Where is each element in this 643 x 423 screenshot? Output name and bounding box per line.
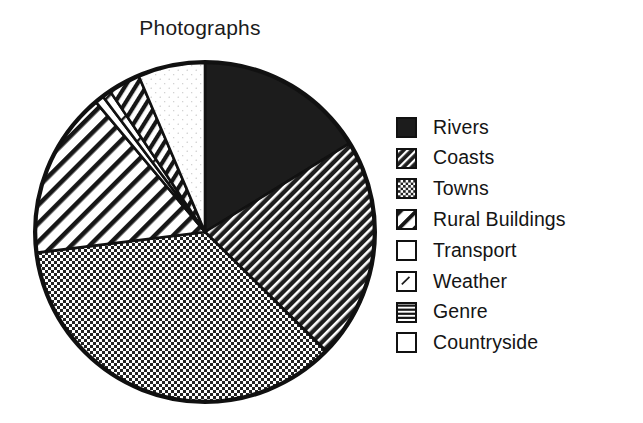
legend-swatch-rural-buildings — [396, 209, 417, 230]
legend-swatch-coasts — [396, 148, 417, 169]
legend-swatch-genre — [396, 302, 417, 323]
legend-item-rivers[interactable]: Rivers — [396, 112, 636, 143]
legend-label-transport: Transport — [433, 241, 517, 261]
legend-label-coasts: Coasts — [433, 148, 494, 168]
legend-item-rural-buildings[interactable]: Rural Buildings — [396, 204, 636, 235]
pie-slice-group — [36, 63, 374, 401]
legend-item-coasts[interactable]: Coasts — [396, 143, 636, 174]
chart-title: Photographs — [0, 16, 400, 40]
pie-svg — [33, 60, 377, 404]
legend-swatch-transport — [396, 240, 417, 261]
legend-swatch-towns — [396, 178, 417, 199]
legend-swatch-rivers — [396, 117, 417, 138]
legend-item-genre[interactable]: Genre — [396, 297, 636, 328]
legend-label-rivers: Rivers — [433, 118, 489, 138]
legend-label-genre: Genre — [433, 302, 488, 322]
legend-swatch-weather — [396, 271, 417, 292]
legend-swatch-countryside — [396, 332, 417, 353]
legend-item-transport[interactable]: Transport — [396, 235, 636, 266]
legend-item-towns[interactable]: Towns — [396, 174, 636, 205]
legend-label-weather: Weather — [433, 272, 507, 292]
legend-label-countryside: Countryside — [433, 333, 538, 353]
pie-chart-plot-area — [33, 60, 377, 404]
legend-label-towns: Towns — [433, 179, 489, 199]
legend-label-rural-buildings: Rural Buildings — [433, 210, 566, 230]
legend-item-countryside[interactable]: Countryside — [396, 328, 636, 359]
pie-chart-figure: Photographs — [0, 0, 643, 423]
legend-item-weather[interactable]: Weather — [396, 266, 636, 297]
chart-legend: Rivers Coasts Towns Rural Buildings Tran — [396, 112, 636, 358]
